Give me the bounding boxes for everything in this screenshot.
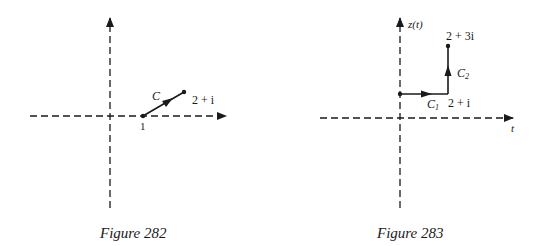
- start-point: [141, 114, 145, 118]
- z-axis-label: z(t): [407, 18, 423, 31]
- c1-label: C1: [427, 97, 439, 112]
- curve-label: C: [152, 89, 161, 103]
- c2-direction-arrow-icon: [445, 65, 452, 76]
- c2-label: C2: [457, 66, 469, 81]
- start-point: [398, 92, 402, 96]
- end-point: [446, 44, 450, 48]
- figure-caption: Figure 282: [99, 225, 167, 241]
- figure-283: z(t) t 2 + 3i 2 + i C1 C2 Figure 283: [320, 18, 515, 241]
- curve-c: [143, 92, 184, 116]
- end-label: 2 + i: [192, 93, 215, 107]
- direction-arrow-icon: [162, 98, 173, 107]
- end-point: [182, 90, 186, 94]
- end-label: 2 + 3i: [446, 29, 475, 43]
- figure-caption: Figure 283: [376, 225, 444, 241]
- start-label: 1: [140, 120, 146, 132]
- figure-282: C 1 2 + i Figure 282: [30, 18, 226, 241]
- t-axis-label: t: [511, 122, 515, 134]
- corner-label: 2 + i: [448, 96, 471, 110]
